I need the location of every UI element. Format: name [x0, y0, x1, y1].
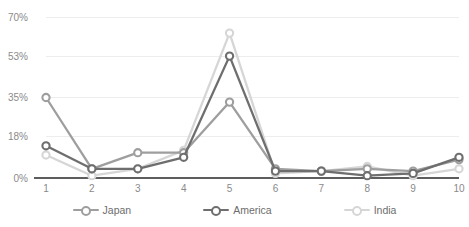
legend-marker-icon — [344, 205, 370, 216]
legend-label: Japan — [103, 204, 132, 216]
y-tick-label: 35% — [8, 92, 28, 103]
x-tick-label: 8 — [364, 183, 370, 194]
data-point-marker — [226, 53, 233, 60]
x-tick-label: 1 — [43, 183, 49, 194]
legend-marker-icon — [73, 205, 99, 216]
x-tick-label: 2 — [89, 183, 95, 194]
gridlines — [46, 17, 459, 137]
data-point-marker — [364, 172, 371, 179]
legend-label: India — [374, 204, 397, 216]
x-tick-label: 10 — [453, 183, 465, 194]
data-point-marker — [455, 165, 462, 172]
data-point-marker — [180, 154, 187, 161]
data-point-marker — [226, 29, 233, 36]
data-point-marker — [42, 94, 49, 101]
y-tick-label: 70% — [8, 12, 28, 23]
x-tick-label: 6 — [273, 183, 279, 194]
x-tick-label: 7 — [319, 183, 325, 194]
data-point-marker — [455, 154, 462, 161]
data-point-marker — [272, 168, 279, 175]
y-tick-label: 18% — [8, 131, 28, 142]
data-point-marker — [134, 165, 141, 172]
data-point-marker — [42, 142, 49, 149]
y-tick-label: 0% — [14, 173, 29, 184]
chart-legend: JapanAmericaIndia — [0, 198, 469, 222]
legend-item-india[interactable]: India — [344, 204, 397, 216]
series-line — [46, 33, 459, 176]
line-chart: 0%18%35%53%70% 12345678910 JapanAmericaI… — [0, 0, 469, 227]
series-india — [42, 29, 462, 179]
data-point-marker — [42, 151, 49, 158]
chart-plot-area: 0%18%35%53%70% 12345678910 — [0, 0, 469, 227]
y-axis-tick-labels: 0%18%35%53%70% — [8, 12, 28, 184]
x-axis-tick-labels: 12345678910 — [43, 183, 465, 194]
legend-item-america[interactable]: America — [203, 204, 272, 216]
data-point-marker — [318, 168, 325, 175]
y-tick-label: 53% — [8, 51, 28, 62]
legend-marker-icon — [203, 205, 229, 216]
legend-item-japan[interactable]: Japan — [73, 204, 132, 216]
x-tick-label: 3 — [135, 183, 141, 194]
legend-label: America — [233, 204, 272, 216]
x-tick-label: 5 — [227, 183, 233, 194]
data-point-marker — [226, 99, 233, 106]
data-series-group — [42, 29, 462, 179]
series-america — [42, 53, 462, 180]
data-point-marker — [410, 170, 417, 177]
x-tick-label: 4 — [181, 183, 187, 194]
x-tick-label: 9 — [410, 183, 416, 194]
series-line — [46, 56, 459, 176]
series-line — [46, 98, 459, 172]
data-point-marker — [88, 165, 95, 172]
data-point-marker — [134, 149, 141, 156]
